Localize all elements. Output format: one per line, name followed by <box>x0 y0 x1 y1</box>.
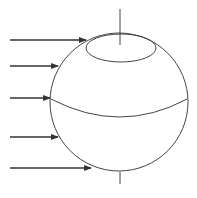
equator-line <box>51 99 187 117</box>
sphere-outline <box>50 33 188 171</box>
sphere-sunlight-diagram <box>0 0 197 198</box>
polar-circle <box>86 34 156 62</box>
